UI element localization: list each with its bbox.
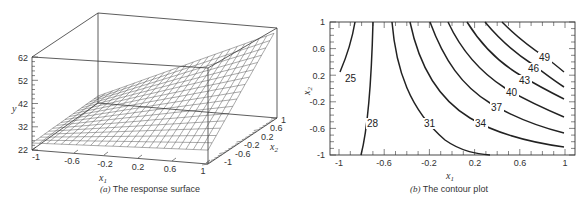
x2-tick: -0.6: [309, 124, 325, 134]
x1-tick: 0.6: [514, 158, 527, 168]
contour-label-31: 31: [424, 118, 436, 129]
x2-tick: 1: [320, 17, 325, 27]
caption-letter-a: (a): [100, 184, 111, 194]
x1-tick: -1: [335, 158, 343, 168]
contour-28: [361, 22, 373, 155]
contour-ticks: [330, 22, 575, 155]
contour-40: [448, 22, 564, 117]
x1-axis-label-b: x1: [445, 170, 454, 183]
contour-label-34: 34: [475, 118, 487, 129]
contour-label-40: 40: [506, 87, 518, 98]
x1-tick: -0.2: [421, 158, 437, 168]
x2-tick: 0.2: [312, 71, 325, 81]
contour-37: [430, 22, 564, 133]
x2-tick: -1: [224, 157, 232, 167]
contour-label-28: 28: [367, 118, 379, 129]
caption-text-b: The contour plot: [423, 184, 488, 194]
y-tick-52: 52: [18, 76, 28, 86]
x1-tick: 0.2: [469, 158, 482, 168]
x1-tick: -1: [32, 152, 40, 162]
x2-tick: -0.2: [244, 140, 260, 150]
x2-tick: 1: [281, 115, 286, 125]
y-tick-42: 42: [18, 99, 28, 109]
contour-label-25: 25: [345, 73, 357, 84]
contour-label-43: 43: [519, 75, 531, 86]
x1-tick: -0.2: [97, 159, 113, 169]
x1-axis-ticks-a: [32, 147, 210, 163]
y-axis-label-a: y: [11, 103, 17, 114]
x1-tick: 0.2: [132, 162, 145, 172]
caption-text-a: The response surface: [113, 184, 200, 194]
contour-label-46: 46: [528, 63, 540, 74]
contour-lines: [340, 22, 564, 155]
figure: 62 52 42 32 22 y -1 -0.6 -0.2 0.2 0.6 1 …: [0, 0, 585, 207]
x2-axis-label-b: x2: [301, 87, 314, 96]
contour-25: [340, 22, 355, 72]
x2-tick: 0.6: [312, 44, 325, 54]
contour-frame: [330, 22, 575, 155]
x1-tick: 1: [562, 158, 567, 168]
y-axis-a: [32, 57, 38, 150]
y-tick-22: 22: [18, 145, 28, 155]
x2-axis-label-a: x2: [269, 141, 278, 154]
y-tick-32: 32: [18, 122, 28, 132]
x2-tick: -1: [317, 150, 325, 160]
y-tick-62: 62: [18, 53, 28, 63]
x1-tick: 1: [200, 166, 205, 176]
caption-a: (a) The response surface: [100, 184, 200, 194]
x1-tick: 0.6: [164, 164, 177, 174]
caption-b: (b) The contour plot: [410, 184, 488, 194]
caption-letter-b: (b): [410, 184, 421, 194]
contour-plot: 25 28 31 34 37 40 43 46 49 1 0.6 0.2 -0.…: [301, 17, 575, 183]
contour-31: [392, 22, 490, 155]
x1-tick: -0.6: [376, 158, 392, 168]
x1-tick: -0.6: [64, 156, 80, 166]
contour-label-37: 37: [491, 102, 503, 113]
contour-label-49: 49: [539, 52, 551, 63]
x2-tick: -0.2: [309, 97, 325, 107]
x2-tick: -0.6: [235, 149, 251, 159]
